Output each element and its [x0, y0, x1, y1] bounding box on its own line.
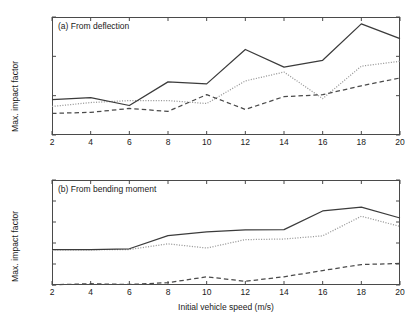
x-tick-label: 4	[79, 287, 103, 297]
x-tick-label: 14	[272, 287, 296, 297]
x-tick-label: 20	[388, 287, 412, 297]
x-axis-label: Initial vehicle speed (m/s)	[52, 302, 400, 312]
x-tick-label: 2	[40, 287, 64, 297]
figure-root: Max. impact factor (a) From deflection 1…	[0, 0, 416, 328]
series-dotted-b	[52, 216, 400, 250]
series-solid-b	[52, 207, 400, 249]
x-tick-label: 6	[117, 287, 141, 297]
x-tick-label: 8	[156, 287, 180, 297]
x-tick-label: 16	[311, 287, 335, 297]
series-dashed-b	[52, 263, 400, 284]
x-tick-label: 12	[233, 287, 257, 297]
x-tick-label: 10	[195, 287, 219, 297]
plot-area-b	[0, 0, 416, 328]
x-tick-label: 18	[349, 287, 373, 297]
